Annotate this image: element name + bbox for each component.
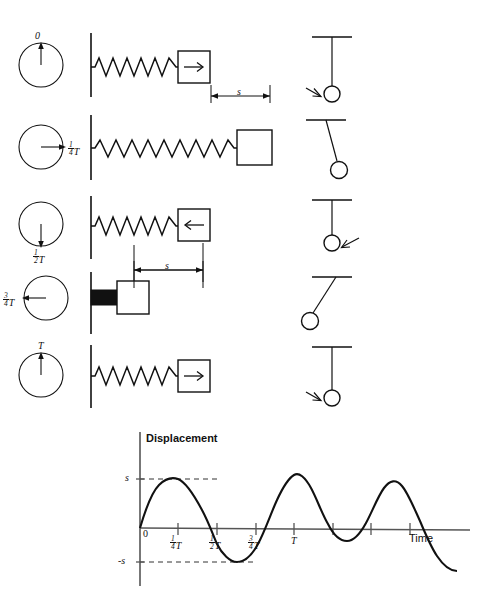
frac-den: 4 [170, 543, 176, 551]
spring-row3 [91, 217, 180, 235]
phase-label-T: T [38, 340, 44, 351]
spring-row2 [91, 140, 239, 157]
phase-label-quarter-T: 14T [68, 141, 79, 157]
mass-box-row4 [117, 281, 149, 314]
graph-label-minus-s: -s [118, 555, 125, 566]
graph-y-axis-label: Displacement [146, 432, 218, 444]
frac-den: 4 [3, 300, 9, 308]
phase-dial-row2 [19, 125, 66, 169]
phase-dial-row4 [22, 276, 68, 320]
graph-tick-label-quarter-T: 14T [170, 535, 181, 551]
graph-origin-label: 0 [143, 528, 148, 539]
graph-x-axis-label: Time [409, 532, 433, 544]
pendulum-row4 [302, 277, 353, 330]
pendulum-arrow-right-row5 [306, 392, 321, 401]
graph-tick-label-T: T [291, 535, 297, 546]
shm-figure: 0 [0, 0, 482, 609]
spring-row1 [91, 58, 180, 76]
frac-den: 2 [33, 257, 39, 265]
graph-label-plus-s: s [125, 472, 129, 483]
pendulum-row3 [312, 200, 359, 251]
spring-row4-compressed [91, 290, 119, 305]
frac-suffix: T [176, 540, 182, 551]
frac-den: 4 [68, 149, 74, 157]
phase-dial-row5 [19, 352, 63, 397]
frac-den: 4 [248, 543, 254, 551]
phase-dial-row3 [19, 202, 63, 248]
dimension-label-row3: s [165, 260, 169, 271]
diagram-vectors [0, 0, 482, 609]
graph-curve [140, 474, 457, 571]
pendulum-row1 [306, 37, 352, 102]
pendulum-row5 [306, 347, 352, 406]
frac-suffix: T [39, 254, 45, 265]
displacement-time-graph [136, 432, 470, 586]
phase-label-three-quarter-T: 34T [3, 292, 14, 308]
spring-row5 [91, 367, 180, 385]
frac-suffix: T [74, 146, 80, 157]
frac-suffix: T [9, 297, 15, 308]
pendulum-row2 [306, 120, 348, 179]
phase-label-half-T: 12T [33, 249, 44, 265]
mass-box-row2 [237, 130, 272, 165]
graph-tick-label-half-T: 12T [209, 535, 220, 551]
pendulum-arrow-left-row3 [342, 238, 360, 248]
dimension-label-row1: s [237, 86, 241, 97]
frac-den: 2 [209, 543, 215, 551]
phase-dial-row1 [19, 42, 63, 87]
graph-tick-label-three-quarter-T: 34T [248, 535, 259, 551]
pendulum-arrow-right-row1 [306, 88, 321, 97]
graph-x-axis [140, 528, 470, 530]
frac-suffix: T [254, 540, 260, 551]
frac-suffix: T [215, 540, 221, 551]
